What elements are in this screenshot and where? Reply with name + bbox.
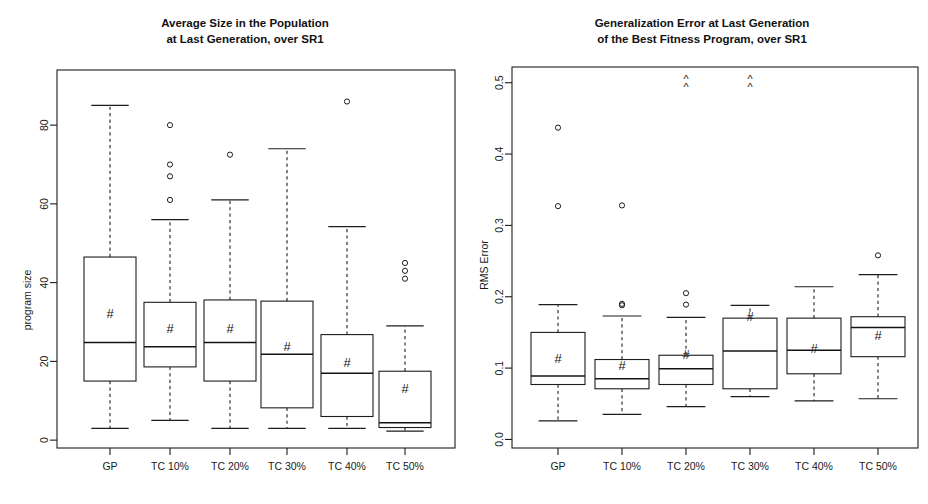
y-axis-tick-label: 60 xyxy=(38,198,50,210)
mean-marker: # xyxy=(226,321,234,336)
boxplot-tc-20: #^^ xyxy=(659,73,713,407)
y-axis-tick-label: 0.4 xyxy=(493,147,505,162)
out-of-range-marker: ^ xyxy=(747,81,753,93)
outlier-point xyxy=(619,203,624,208)
x-axis-tick-label-tc-20: TC 20% xyxy=(211,460,249,472)
boxplot-tc-20: # xyxy=(204,152,256,428)
outlier-point xyxy=(555,125,560,130)
plot-frame xyxy=(57,70,455,448)
x-axis-tick-label-tc-10: TC 10% xyxy=(151,460,189,472)
x-axis-tick-label-tc-50: TC 50% xyxy=(386,460,424,472)
x-axis-tick-label-tc-30: TC 30% xyxy=(731,460,769,472)
x-axis-tick-label-tc-40: TC 40% xyxy=(795,460,833,472)
mean-marker: # xyxy=(554,351,562,366)
y-axis-tick-label: 0.0 xyxy=(493,432,505,447)
out-of-range-marker: ^ xyxy=(683,81,689,93)
x-axis-tick-label-tc-20: TC 20% xyxy=(667,460,705,472)
outlier-point xyxy=(167,123,172,128)
boxplot-tc-50: # xyxy=(379,260,431,431)
y-axis-tick-label: 0 xyxy=(38,437,50,443)
y-axis-tick-label: 0.3 xyxy=(493,218,505,233)
outlier-point xyxy=(167,174,172,179)
x-axis-tick-label-gp: GP xyxy=(550,460,565,472)
mean-marker: # xyxy=(618,358,626,373)
y-axis-tick-label: 20 xyxy=(38,355,50,367)
outlier-point xyxy=(683,291,688,296)
panel-average-size: Average Size in the Population at Last G… xyxy=(0,0,470,504)
x-axis-tick-label-tc-40: TC 40% xyxy=(328,460,366,472)
y-axis-tick-label: 40 xyxy=(38,277,50,289)
boxplot-tc-50: # xyxy=(851,253,905,399)
outlier-point xyxy=(683,302,688,307)
outlier-point xyxy=(875,253,880,258)
chart-svg-left: Average Size in the Population at Last G… xyxy=(0,0,470,504)
outlier-point xyxy=(402,268,407,273)
plot-frame xyxy=(512,67,918,448)
boxplot-gp: # xyxy=(531,125,585,421)
box-iqr xyxy=(379,371,431,427)
chart-title-line1: Average Size in the Population xyxy=(161,17,329,29)
plot-body-left: 020406080GPTC 10%TC 20%TC 30%TC 40%TC 50… xyxy=(38,70,455,472)
outlier-point xyxy=(227,152,232,157)
box-iqr xyxy=(321,335,373,417)
boxplot-gp: # xyxy=(84,105,136,428)
panel-generalization-error: Generalization Error at Last Generation … xyxy=(470,0,928,504)
y-axis-tick-label: 0.2 xyxy=(493,289,505,304)
figure-canvas: Average Size in the Population at Last G… xyxy=(0,0,928,504)
mean-marker: # xyxy=(810,341,818,356)
box-iqr xyxy=(204,300,256,381)
chart-svg-right: Generalization Error at Last Generation … xyxy=(470,0,928,504)
mean-marker: # xyxy=(401,381,409,396)
outlier-point xyxy=(167,197,172,202)
boxplot-tc-40: # xyxy=(787,287,841,401)
chart-title-line1: Generalization Error at Last Generation xyxy=(595,17,810,29)
mean-marker: # xyxy=(746,309,754,324)
boxplot-tc-10: # xyxy=(144,123,196,421)
boxplot-tc-40: # xyxy=(321,99,373,428)
mean-marker: # xyxy=(343,355,351,370)
boxplot-tc-30: #^^ xyxy=(723,73,777,397)
outlier-point xyxy=(167,162,172,167)
y-axis-title: RMS Error xyxy=(478,240,490,290)
plot-body-right: 0.00.10.20.30.40.5GPTC 10%TC 20%TC 30%TC… xyxy=(493,67,918,472)
mean-marker: # xyxy=(874,328,882,343)
mean-marker: # xyxy=(682,347,690,362)
x-axis-tick-label-tc-10: TC 10% xyxy=(603,460,641,472)
y-axis-tick-label: 80 xyxy=(38,119,50,131)
outlier-point xyxy=(402,260,407,265)
chart-title-line2: at Last Generation, over SR1 xyxy=(166,33,324,45)
mean-marker: # xyxy=(166,321,174,336)
mean-marker: # xyxy=(106,306,114,321)
y-axis-tick-label: 0.1 xyxy=(493,361,505,376)
x-axis-tick-label-tc-30: TC 30% xyxy=(268,460,306,472)
boxplot-tc-30: # xyxy=(261,149,313,429)
y-axis-tick-label: 0.5 xyxy=(493,75,505,90)
outlier-point xyxy=(555,204,560,209)
chart-title-line2: of the Best Fitness Program, over SR1 xyxy=(597,33,807,45)
box-iqr xyxy=(723,318,777,389)
outlier-point xyxy=(402,276,407,281)
boxplot-tc-10: # xyxy=(595,203,649,415)
y-axis-title: program size xyxy=(21,270,33,331)
outlier-point xyxy=(344,99,349,104)
mean-marker: # xyxy=(283,339,291,354)
x-axis-tick-label-tc-50: TC 50% xyxy=(859,460,897,472)
x-axis-tick-label-gp: GP xyxy=(102,460,117,472)
